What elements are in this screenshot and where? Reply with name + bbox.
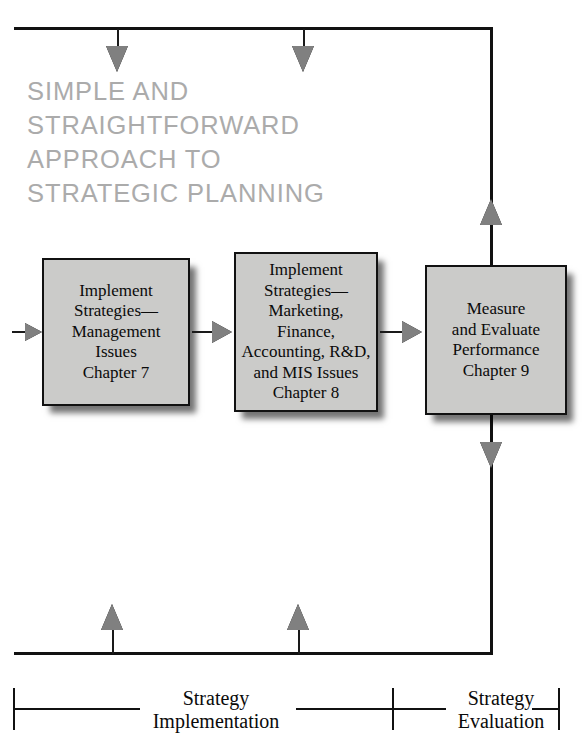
process-box-label: Measure and Evaluate Performance Chapter… (431, 299, 561, 381)
process-box-label: Implement Strategies— Marketing, Finance… (240, 260, 372, 404)
feedback-line-bottom (14, 652, 493, 655)
feedback-stem-bottom-left (112, 628, 114, 654)
feedback-line-top (14, 27, 493, 30)
scale-rule-evaluation-left (394, 708, 446, 710)
arrow-down-icon-left (106, 46, 128, 72)
process-box-implement-strategies-marketing[interactable]: Implement Strategies— Marketing, Finance… (234, 252, 378, 412)
phase-label-strategy-evaluation: Strategy Evaluation (446, 687, 556, 733)
arrow-up-icon-left (101, 604, 123, 630)
phase-label-strategy-implementation: Strategy Implementation (140, 687, 292, 733)
feedback-stem-bottom-right (298, 628, 300, 654)
arrow-up-icon-spine (480, 199, 502, 225)
process-box-implement-strategies-management[interactable]: Implement Strategies— Management Issues … (42, 258, 190, 406)
arrow-down-icon-right (292, 46, 314, 72)
arrow-right-icon-1 (212, 321, 232, 343)
diagram-canvas: SIMPLE AND STRAIGHTFORWARD APPROACH TO S… (0, 0, 582, 744)
scale-rule-evaluation-right (532, 708, 559, 710)
scale-tick-right (558, 688, 560, 730)
arrow-down-icon-spine (480, 442, 502, 468)
arrow-up-icon-right (287, 604, 309, 630)
arrow-right-icon-entry (25, 323, 42, 341)
process-box-label: Implement Strategies— Management Issues … (48, 281, 184, 384)
arrow-right-icon-2 (402, 321, 422, 343)
page-title: SIMPLE AND STRAIGHTFORWARD APPROACH TO S… (27, 74, 467, 210)
process-box-measure-and-evaluate[interactable]: Measure and Evaluate Performance Chapter… (425, 265, 567, 415)
scale-rule-implementation-left (14, 708, 140, 710)
scale-rule-implementation-right (296, 708, 396, 710)
